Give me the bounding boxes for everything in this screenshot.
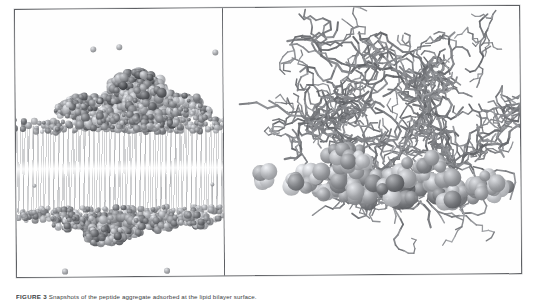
bond-stick bbox=[283, 52, 288, 57]
bond-stick bbox=[269, 101, 278, 106]
bond-stick bbox=[450, 77, 455, 81]
atom-sphere bbox=[218, 205, 223, 210]
bond-stick bbox=[463, 112, 469, 115]
bond-stick bbox=[431, 63, 435, 64]
bond-stick bbox=[476, 43, 479, 46]
bond-stick bbox=[394, 235, 398, 239]
atom-sphere bbox=[261, 163, 278, 180]
bond-stick bbox=[473, 43, 476, 46]
bond-stick bbox=[318, 114, 323, 115]
atom-sphere bbox=[488, 174, 506, 192]
atom-sphere bbox=[161, 205, 166, 210]
bond-stick bbox=[310, 20, 312, 27]
bond-stick bbox=[313, 114, 318, 115]
bond-stick bbox=[501, 97, 505, 101]
atom-sphere bbox=[148, 114, 154, 120]
atom-sphere bbox=[40, 216, 47, 223]
bond-stick bbox=[462, 220, 464, 227]
bond-stick bbox=[366, 125, 371, 127]
bond-stick bbox=[273, 119, 279, 120]
bond-stick bbox=[337, 22, 338, 30]
atom-sphere bbox=[173, 97, 180, 104]
bond-stick bbox=[455, 231, 458, 237]
bond-stick bbox=[453, 106, 454, 112]
atom-sphere bbox=[287, 173, 304, 190]
bond-stick bbox=[352, 213, 359, 218]
bond-stick bbox=[387, 99, 391, 105]
bond-stick bbox=[426, 37, 430, 41]
atom-sphere bbox=[133, 125, 140, 132]
bond-stick bbox=[318, 75, 323, 81]
atom-sphere bbox=[111, 98, 117, 104]
atom-sphere bbox=[100, 226, 106, 232]
bond-stick bbox=[365, 27, 366, 34]
bond-stick bbox=[402, 35, 403, 40]
bond-stick bbox=[491, 111, 496, 114]
bond-stick bbox=[404, 251, 409, 254]
bond-stick bbox=[411, 107, 414, 113]
bond-stick bbox=[360, 87, 361, 94]
lipid-bilayer bbox=[15, 124, 224, 214]
atom-sphere bbox=[129, 77, 135, 83]
atom-sphere bbox=[45, 205, 50, 210]
bond-stick bbox=[508, 147, 511, 152]
bond-stick bbox=[452, 237, 455, 242]
bond-stick bbox=[485, 110, 491, 111]
figure-caption-label: FIGURE 3 bbox=[16, 293, 47, 300]
bond-stick bbox=[485, 52, 486, 56]
bond-stick bbox=[287, 135, 292, 138]
bond-stick bbox=[341, 123, 346, 125]
bond-stick bbox=[293, 130, 297, 134]
bond-stick bbox=[485, 206, 487, 213]
atom-sphere bbox=[206, 107, 211, 112]
bond-stick bbox=[479, 78, 480, 83]
bond-stick bbox=[514, 123, 518, 126]
bond-stick bbox=[386, 75, 393, 77]
bond-stick bbox=[368, 44, 369, 52]
bond-stick bbox=[257, 102, 268, 108]
bond-stick bbox=[327, 82, 332, 83]
bond-stick bbox=[383, 151, 390, 152]
bond-stick bbox=[355, 58, 356, 66]
free-ion bbox=[212, 49, 218, 55]
bond-stick bbox=[493, 47, 497, 49]
peptide-aggregate-left bbox=[15, 8, 222, 10]
bond-stick bbox=[296, 79, 297, 85]
atom-sphere bbox=[424, 150, 439, 165]
atom-sphere bbox=[179, 219, 184, 224]
bond-stick bbox=[452, 72, 453, 76]
bond-stick bbox=[396, 245, 399, 249]
bond-stick bbox=[359, 215, 367, 218]
bond-stick bbox=[328, 85, 330, 90]
atom-sphere bbox=[355, 154, 370, 169]
bond-stick bbox=[350, 29, 352, 36]
bond-stick bbox=[356, 70, 361, 73]
bond-stick bbox=[493, 10, 496, 14]
bond-stick bbox=[502, 106, 508, 108]
bond-stick bbox=[451, 40, 456, 42]
bond-stick bbox=[268, 106, 278, 109]
bond-stick bbox=[392, 104, 397, 107]
bond-stick bbox=[299, 55, 302, 59]
bond-stick bbox=[478, 213, 485, 215]
bond-stick bbox=[301, 106, 302, 112]
bond-stick bbox=[462, 167, 469, 170]
bond-stick bbox=[488, 23, 490, 28]
atom-sphere bbox=[76, 104, 81, 109]
bond-stick bbox=[419, 196, 423, 198]
bond-stick bbox=[463, 214, 464, 220]
bond-stick bbox=[319, 206, 326, 211]
bond-stick bbox=[421, 51, 424, 55]
bond-stick bbox=[387, 105, 391, 111]
bond-stick bbox=[320, 47, 321, 56]
bond-stick bbox=[431, 83, 432, 87]
bond-stick bbox=[357, 65, 366, 67]
bond-stick bbox=[496, 97, 497, 103]
bond-stick bbox=[350, 122, 355, 124]
bond-stick bbox=[439, 32, 444, 33]
bond-stick bbox=[290, 112, 296, 113]
bond-stick bbox=[469, 104, 473, 110]
bond-stick bbox=[383, 52, 390, 54]
atom-sphere bbox=[479, 170, 490, 181]
bond-stick bbox=[397, 214, 400, 219]
